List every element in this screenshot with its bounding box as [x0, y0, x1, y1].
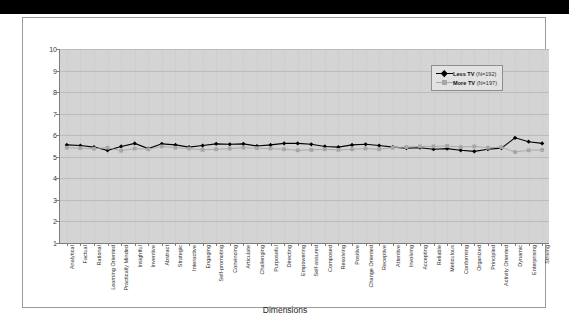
data-point [459, 145, 463, 149]
x-axis-tick-mark [257, 243, 258, 246]
data-point [160, 145, 164, 149]
data-point [486, 146, 490, 150]
x-axis-tick-mark [501, 243, 502, 246]
series-less-tv [65, 136, 545, 154]
x-axis-tick-label: Strategic [177, 245, 183, 267]
data-point [323, 147, 327, 151]
x-axis-tick-label: Self-promoting [218, 245, 224, 281]
x-axis-line [59, 243, 549, 244]
x-axis-title: Dimensions [23, 305, 547, 315]
data-point [92, 147, 96, 151]
data-point [296, 148, 300, 152]
data-point [500, 145, 504, 149]
figure-frame: 12345678910 Less TV (N=192)More TV (N=19… [22, 17, 546, 308]
x-axis-tick-mark [298, 243, 299, 246]
data-point [540, 141, 544, 145]
data-point [282, 147, 286, 151]
x-axis-tick-label: Resolving [340, 245, 346, 270]
x-axis-tick-label: Factual [82, 245, 88, 263]
x-axis-tick-label: Composed [327, 245, 333, 272]
x-axis-tick-label: Practically Minded [123, 245, 129, 291]
data-point [214, 147, 218, 151]
x-axis-tick-mark [311, 243, 312, 246]
data-point [106, 146, 110, 150]
y-axis-tick-mark [56, 178, 60, 179]
series-line [67, 138, 542, 152]
y-axis-tick-mark [56, 114, 60, 115]
x-axis-tick-label: Challenging [259, 245, 265, 275]
data-point [296, 141, 300, 145]
x-axis-tick-label: Organized [476, 245, 482, 271]
legend-label: Less TV (N=192) [453, 71, 496, 77]
legend: Less TV (N=192)More TV (N=197) [431, 65, 503, 91]
data-point [364, 142, 368, 146]
data-point [337, 148, 341, 152]
data-point [269, 147, 273, 151]
x-axis-tick-label: Involving [408, 245, 414, 267]
data-point [214, 142, 218, 146]
x-axis-tick-mark [175, 243, 176, 246]
data-point [404, 145, 408, 149]
x-axis-tick-label: Articulate [245, 245, 251, 268]
x-axis-tick-mark [420, 243, 421, 246]
data-point [133, 141, 137, 145]
x-axis-tick-label: Meticulous [449, 245, 455, 272]
x-axis-tick-mark [108, 243, 109, 246]
x-axis-tick-mark [447, 243, 448, 246]
x-axis-tick-label: Engaging [205, 245, 211, 269]
x-axis-tick-label: Self-assured [313, 245, 319, 276]
data-point [241, 142, 245, 146]
y-axis-tick-mark [56, 71, 60, 72]
x-axis-tick-mark [352, 243, 353, 246]
data-point [540, 148, 544, 152]
x-axis-tick-mark [203, 243, 204, 246]
x-axis-tick-mark [162, 243, 163, 246]
data-point [201, 148, 205, 152]
x-axis-tick-mark [80, 243, 81, 246]
x-axis-tick-mark [488, 243, 489, 246]
x-axis-tick-label: Positive [354, 245, 360, 265]
data-point [350, 143, 354, 147]
data-point [527, 140, 531, 144]
x-axis-tick-mark [189, 243, 190, 246]
x-axis-tick-label: Enterprising [531, 245, 537, 275]
y-axis-tick-mark [56, 200, 60, 201]
x-axis-tick-mark [284, 243, 285, 246]
x-axis-tick-labels: AnalyticalFactualRationalLearning Orient… [60, 245, 549, 303]
x-axis-tick-mark [406, 243, 407, 246]
series-more-tv [65, 144, 544, 154]
data-point [432, 145, 436, 149]
x-axis-tick-mark [338, 243, 339, 246]
data-point [377, 147, 381, 151]
data-point [228, 142, 232, 146]
x-axis-tick-mark [271, 243, 272, 246]
x-axis-tick-mark [216, 243, 217, 246]
data-point [187, 147, 191, 151]
x-axis-tick-label: Conforming [463, 245, 469, 274]
x-axis-tick-label: Accepting [422, 245, 428, 270]
data-point [391, 146, 395, 150]
data-point [65, 146, 69, 150]
y-axis-tick-mark [56, 49, 60, 50]
x-axis-tick-mark [135, 243, 136, 246]
data-point [174, 146, 178, 150]
x-axis-tick-label: Inventive [150, 245, 156, 267]
x-axis-tick-label: Insightful [137, 245, 143, 268]
data-point [201, 143, 205, 147]
y-axis-tick-mark [56, 135, 60, 136]
x-axis-tick-mark [393, 243, 394, 246]
data-point [241, 146, 245, 150]
data-point [255, 146, 259, 150]
y-axis-tick-mark [56, 157, 60, 158]
x-axis-tick-mark [379, 243, 380, 246]
data-point [228, 147, 232, 151]
x-axis-tick-label: Convincing [232, 245, 238, 273]
legend-marker-icon [436, 78, 453, 87]
data-point [119, 144, 123, 148]
x-axis-tick-mark [366, 243, 367, 246]
y-axis-tick-labels: 12345678910 [45, 49, 57, 243]
x-axis-tick-label: Attentive [395, 245, 401, 267]
x-axis-tick-label: Analytical [69, 245, 75, 269]
figure-root: 12345678910 Less TV (N=192)More TV (N=19… [0, 0, 569, 325]
x-axis-tick-label: Directing [286, 245, 292, 267]
